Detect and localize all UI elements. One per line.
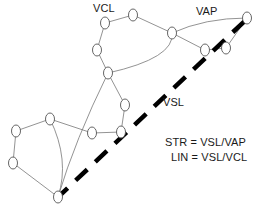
graph-edge bbox=[172, 33, 205, 50]
label-vcl: VCL bbox=[93, 2, 115, 14]
legend-item-str: STR = VSL/VAP bbox=[165, 136, 246, 148]
network-diagram: VCL VAP VSL STR = VSL/VAP LIN = VSL/VCL bbox=[0, 0, 261, 214]
graph-node bbox=[88, 127, 97, 139]
graph-edge bbox=[108, 33, 172, 73]
label-vap: VAP bbox=[196, 5, 218, 17]
vsl-boundary-line bbox=[56, 16, 250, 199]
graph-node bbox=[222, 42, 231, 54]
graph-node bbox=[201, 44, 210, 56]
graph-node bbox=[104, 67, 113, 79]
graph-node bbox=[243, 12, 252, 24]
graph-edge bbox=[133, 15, 172, 33]
graph-node bbox=[93, 44, 102, 56]
graph-node bbox=[168, 27, 177, 39]
graph-node bbox=[9, 157, 18, 169]
node-layer bbox=[9, 9, 252, 203]
legend-item-lin: LIN = VSL/VCL bbox=[171, 151, 247, 163]
graph-edge bbox=[50, 119, 63, 197]
graph-edge bbox=[13, 163, 58, 197]
graph-node bbox=[54, 191, 63, 203]
graph-node bbox=[46, 113, 55, 125]
label-vsl: VSL bbox=[163, 96, 184, 108]
edge-layer bbox=[13, 15, 247, 197]
graph-canvas bbox=[0, 0, 261, 214]
graph-edge bbox=[16, 119, 50, 131]
graph-node bbox=[117, 126, 126, 138]
graph-node bbox=[129, 9, 138, 21]
graph-node bbox=[101, 17, 110, 29]
graph-edge bbox=[58, 73, 108, 197]
graph-node bbox=[121, 99, 130, 111]
vsl-boundary-layer bbox=[56, 16, 250, 199]
graph-node bbox=[12, 125, 21, 137]
